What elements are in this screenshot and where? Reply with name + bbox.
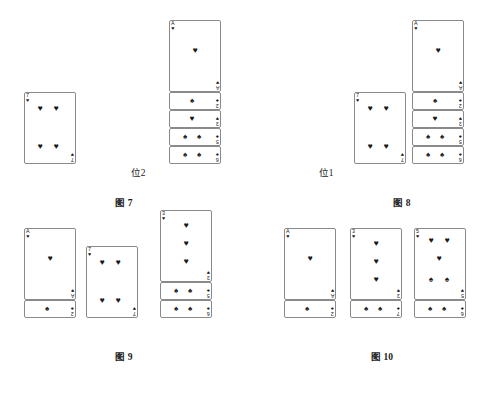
playing-card[interactable]: 5♥5♥♥♥♥♠♠: [414, 228, 466, 300]
spade-pip-icon: ♠: [197, 151, 201, 159]
card-face: 6♠♠♠: [161, 301, 211, 317]
playing-card[interactable]: 2♠♠: [24, 300, 76, 318]
slot-pos2[interactable]: 位2: [112, 164, 164, 182]
spade-pip-icon: ♠: [445, 275, 450, 284]
slot-label-pos2: 位2: [112, 168, 164, 179]
heart-pip-icon: ♥: [433, 115, 438, 123]
slot-pos3[interactable]: 5♥5♥♥♥♥♠♠6♠♠♠位3: [414, 228, 466, 336]
playing-card[interactable]: 7♠♠♠: [350, 300, 402, 318]
playing-card[interactable]: A♥A♥♥: [412, 20, 464, 92]
slot-pos1[interactable]: 7♥7♥♥♥♥♥位1: [24, 92, 76, 182]
card-face: 5♠♠♠: [161, 283, 211, 299]
slot-pos3[interactable]: 3♥3♥♥♥♥5♠♠♠6♠♠♠位3: [160, 210, 212, 336]
card-stack[interactable]: A♥A♥♥2♠♠: [284, 228, 336, 318]
slot-pos1[interactable]: A♥A♥♥2♠♠位1: [24, 228, 76, 336]
heart-pip-icon: ♥: [435, 46, 440, 55]
card-face: 7♥7♥♥♥♥♥: [355, 93, 405, 163]
playing-card[interactable]: A♥A♥♥: [284, 228, 336, 300]
playing-card[interactable]: 2♠♠: [169, 92, 221, 110]
heart-pip-icon: ♥: [37, 104, 42, 113]
spade-pip-icon: ♠: [197, 133, 201, 141]
card-pips: ♥: [170, 21, 220, 91]
card-pips: ♥♥♥: [161, 211, 211, 281]
heart-pip-icon: ♥: [383, 142, 388, 151]
card-stack[interactable]: A♥A♥♥2♠♠3♥♥5♠♠♠6♠♠♠: [169, 20, 221, 164]
heart-pip-icon: ♥: [383, 104, 388, 113]
card-stack[interactable]: A♥A♥♥2♠♠: [24, 228, 76, 318]
heart-pip-icon: ♥: [183, 239, 188, 248]
spade-pip-icon: ♠: [378, 305, 382, 313]
playing-card[interactable]: 6♠♠♠: [412, 146, 464, 164]
spade-pip-icon: ♠: [440, 151, 444, 159]
card-face: A♥A♥♥: [285, 229, 335, 299]
playing-card[interactable]: 2♠♠: [412, 92, 464, 110]
card-stack[interactable]: 7♥7♥♥♥♥♥: [354, 92, 406, 164]
card-face: 3♥♥: [170, 111, 220, 127]
spade-pip-icon: ♠: [183, 151, 187, 159]
playing-card[interactable]: 3♥♥: [169, 110, 221, 128]
playing-card[interactable]: 7♥7♥♥♥♥♥: [86, 246, 138, 318]
playing-card[interactable]: 6♠♠♠: [169, 146, 221, 164]
card-face: A♥A♥♥: [413, 21, 463, 91]
heart-pip-icon: ♥: [47, 254, 52, 263]
card-face: 3♥3♥♥♥♥: [351, 229, 401, 299]
card-pips: ♥: [413, 111, 463, 127]
slot-pos3[interactable]: A♥A♥♥2♠♠3♥♥5♠♠♠6♠♠♠位3: [412, 20, 464, 182]
card-stack[interactable]: 3♥3♥♥♥♥5♠♠♠6♠♠♠: [160, 210, 212, 318]
heart-pip-icon: ♥: [373, 275, 378, 284]
slot-pos2[interactable]: 7♥7♥♥♥♥♥位2: [354, 92, 406, 182]
playing-card[interactable]: 3♥♥: [412, 110, 464, 128]
card-face: A♥A♥♥: [170, 21, 220, 91]
slot-pos2[interactable]: 3♥3♥♥♥♥7♠♠♠位2: [350, 228, 402, 336]
heart-pip-icon: ♥: [428, 236, 433, 245]
heart-pip-icon: ♥: [436, 254, 441, 263]
heart-pip-icon: ♥: [115, 296, 120, 305]
heart-pip-icon: ♥: [373, 239, 378, 248]
playing-card[interactable]: A♥A♥♥: [169, 20, 221, 92]
playing-card[interactable]: 3♥3♥♥♥♥: [160, 210, 212, 282]
card-pips: ♥♥♥♥: [25, 93, 75, 163]
card-stack[interactable]: 7♥7♥♥♥♥♥: [24, 92, 76, 164]
heart-pip-icon: ♥: [307, 254, 312, 263]
spade-pip-icon: ♠: [364, 305, 368, 313]
slot-pos3[interactable]: A♥A♥♥2♠♠3♥♥5♠♠♠6♠♠♠位3: [169, 20, 221, 182]
playing-card[interactable]: 3♥3♥♥♥♥: [350, 228, 402, 300]
figure-fig8: 位17♥7♥♥♥♥♥位2A♥A♥♥2♠♠3♥♥5♠♠♠6♠♠♠位3图 8: [292, 14, 491, 182]
card-pips: ♥♥♥♥: [355, 93, 405, 163]
card-stack[interactable]: 3♥3♥♥♥♥7♠♠♠: [350, 228, 402, 318]
playing-card[interactable]: 5♠♠♠: [169, 128, 221, 146]
spade-pip-icon: ♠: [428, 305, 432, 313]
playing-card[interactable]: 7♥7♥♥♥♥♥: [354, 92, 406, 164]
card-pips: ♠♠: [415, 301, 465, 317]
slot-pos1[interactable]: 位1: [300, 164, 352, 182]
card-pips: ♠: [413, 93, 463, 109]
card-face: 5♠♠♠: [170, 129, 220, 145]
card-stack[interactable]: 7♥7♥♥♥♥♥: [86, 246, 138, 318]
heart-pip-icon: ♥: [183, 257, 188, 266]
playing-card[interactable]: 5♠♠♠: [412, 128, 464, 146]
playing-card[interactable]: 6♠♠♠: [414, 300, 466, 318]
playing-card[interactable]: 2♠♠: [284, 300, 336, 318]
spade-pip-icon: ♠: [433, 97, 437, 105]
card-stack[interactable]: A♥A♥♥2♠♠3♥♥5♠♠♠6♠♠♠: [412, 20, 464, 164]
slot-label-pos1: 位1: [300, 168, 352, 179]
card-pips: ♠♠: [413, 129, 463, 145]
card-face: 3♥♥: [413, 111, 463, 127]
heart-pip-icon: ♥: [183, 221, 188, 230]
card-pips: ♥♥♥♠♠: [415, 229, 465, 299]
heart-pip-icon: ♥: [373, 257, 378, 266]
slot-pos2[interactable]: 7♥7♥♥♥♥♥位2: [86, 246, 138, 336]
card-face: 6♠♠♠: [413, 147, 463, 163]
playing-card[interactable]: 5♠♠♠: [160, 282, 212, 300]
slot-row: A♥A♥♥2♠♠位17♥7♥♥♥♥♥位23♥3♥♥♥♥5♠♠♠6♠♠♠位3: [14, 232, 234, 336]
spade-pip-icon: ♠: [174, 287, 178, 295]
diagram-canvas: 7♥7♥♥♥♥♥位1位2A♥A♥♥2♠♠3♥♥5♠♠♠6♠♠♠位3图 7位17♥…: [0, 0, 491, 409]
figure-fig9: A♥A♥♥2♠♠位17♥7♥♥♥♥♥位23♥3♥♥♥♥5♠♠♠6♠♠♠位3图 9: [14, 232, 234, 336]
playing-card[interactable]: A♥A♥♥: [24, 228, 76, 300]
playing-card[interactable]: 6♠♠♠: [160, 300, 212, 318]
card-face: 3♥3♥♥♥♥: [161, 211, 211, 281]
card-stack[interactable]: 5♥5♥♥♥♥♠♠6♠♠♠: [414, 228, 466, 318]
playing-card[interactable]: 7♥7♥♥♥♥♥: [24, 92, 76, 164]
spade-pip-icon: ♠: [174, 305, 178, 313]
slot-pos1[interactable]: A♥A♥♥2♠♠位1: [284, 228, 336, 336]
